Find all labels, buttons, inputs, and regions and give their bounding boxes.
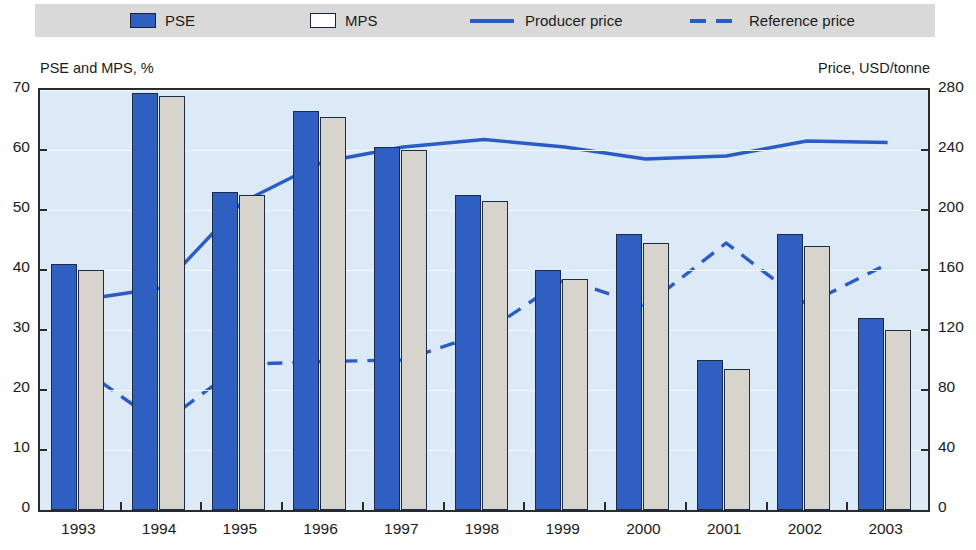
legend-solid-line-icon bbox=[470, 13, 514, 28]
legend-item-pse[interactable]: PSE bbox=[130, 4, 195, 37]
legend-item-label: Reference price bbox=[749, 12, 855, 29]
y-axis-right-tick-label: 80 bbox=[938, 378, 955, 396]
x-axis-tick-label-1994: 1994 bbox=[119, 520, 199, 538]
bar-mps-1994 bbox=[159, 96, 185, 510]
y-axis-left-tick-label: 10 bbox=[0, 438, 30, 456]
y-axis-left-tick bbox=[40, 149, 47, 151]
y-axis-left-tick bbox=[40, 269, 47, 271]
legend-item-label: MPS bbox=[345, 12, 378, 29]
y-axis-right-tick bbox=[921, 329, 928, 331]
y-axis-right-tick-label: 120 bbox=[938, 318, 964, 336]
x-axis-tick bbox=[766, 502, 768, 510]
bar-pse-2003 bbox=[858, 318, 884, 510]
bar-mps-2002 bbox=[804, 246, 830, 510]
legend-item-label: Producer price bbox=[525, 12, 623, 29]
x-axis-tick-label-2001: 2001 bbox=[684, 520, 764, 538]
y-axis-right-tick-label: 240 bbox=[938, 138, 964, 156]
bar-pse-1996 bbox=[293, 111, 319, 510]
y-axis-left-tick-label: 30 bbox=[0, 318, 30, 336]
x-axis-tick bbox=[846, 502, 848, 510]
bar-mps-2001 bbox=[724, 369, 750, 510]
gridline bbox=[40, 90, 928, 91]
y-axis-right-tick bbox=[921, 149, 928, 151]
bar-pse-1994 bbox=[132, 93, 158, 510]
legend-item-label: PSE bbox=[165, 12, 195, 29]
bar-mps-1993 bbox=[78, 270, 104, 510]
y-axis-right-tick-label: 40 bbox=[938, 438, 955, 456]
bar-mps-2000 bbox=[643, 243, 669, 510]
bar-mps-1999 bbox=[562, 279, 588, 510]
y-axis-left-tick-label: 0 bbox=[0, 498, 30, 516]
bar-mps-1997 bbox=[401, 150, 427, 510]
plot-area bbox=[38, 88, 930, 512]
x-axis-tick-label-2002: 2002 bbox=[765, 520, 845, 538]
y-axis-right-tick bbox=[921, 389, 928, 391]
y-axis-left-tick-label: 20 bbox=[0, 378, 30, 396]
right-axis-caption: Price, USD/tonne bbox=[818, 60, 930, 76]
x-axis-tick bbox=[281, 502, 283, 510]
left-axis-caption: PSE and MPS, % bbox=[40, 60, 154, 76]
bar-pse-1997 bbox=[374, 147, 400, 510]
x-axis-tick bbox=[120, 502, 122, 510]
bar-pse-2000 bbox=[616, 234, 642, 510]
y-axis-left-tick bbox=[40, 449, 47, 451]
x-axis-tick bbox=[604, 502, 606, 510]
x-axis-tick-label-1999: 1999 bbox=[523, 520, 603, 538]
chart-page: PSEMPSProducer priceReference price PSE … bbox=[0, 0, 976, 550]
legend-swatch-filled-icon bbox=[130, 13, 156, 28]
y-axis-right-tick bbox=[921, 269, 928, 271]
y-axis-left-tick bbox=[40, 329, 47, 331]
y-axis-left-tick bbox=[40, 389, 47, 391]
y-axis-right-tick-label: 200 bbox=[938, 198, 964, 216]
y-axis-left-tick-label: 40 bbox=[0, 258, 30, 276]
y-axis-right-tick-label: 280 bbox=[938, 78, 964, 96]
y-axis-right-tick-label: 160 bbox=[938, 258, 964, 276]
chart-legend: PSEMPSProducer priceReference price bbox=[35, 4, 935, 37]
bar-mps-1996 bbox=[320, 117, 346, 510]
x-axis-tick bbox=[685, 502, 687, 510]
legend-swatch-open-icon bbox=[310, 13, 336, 28]
y-axis-left-tick-label: 70 bbox=[0, 78, 30, 96]
y-axis-right-tick-label: 0 bbox=[938, 498, 947, 516]
bar-mps-2003 bbox=[885, 330, 911, 510]
x-axis-tick-label-2000: 2000 bbox=[603, 520, 683, 538]
bar-pse-1995 bbox=[212, 192, 238, 510]
x-axis-tick bbox=[523, 502, 525, 510]
x-axis-tick-label-1993: 1993 bbox=[38, 520, 118, 538]
y-axis-left-tick-label: 50 bbox=[0, 198, 30, 216]
bar-pse-1999 bbox=[535, 270, 561, 510]
bar-mps-1995 bbox=[239, 195, 265, 510]
y-axis-right-tick bbox=[921, 449, 928, 451]
x-axis-tick bbox=[362, 502, 364, 510]
legend-item-mps[interactable]: MPS bbox=[310, 4, 378, 37]
legend-item-reference-price[interactable]: Reference price bbox=[690, 4, 855, 37]
x-axis-tick-label-1995: 1995 bbox=[200, 520, 280, 538]
y-axis-left-tick bbox=[40, 209, 47, 211]
x-axis-tick bbox=[443, 502, 445, 510]
y-axis-left-tick-label: 60 bbox=[0, 138, 30, 156]
legend-item-producer-price[interactable]: Producer price bbox=[470, 4, 623, 37]
bar-pse-2001 bbox=[697, 360, 723, 510]
bar-pse-2002 bbox=[777, 234, 803, 510]
x-axis-tick-label-1998: 1998 bbox=[442, 520, 522, 538]
bar-mps-1998 bbox=[482, 201, 508, 510]
bar-pse-1998 bbox=[455, 195, 481, 510]
legend-dashed-line-icon bbox=[690, 13, 736, 28]
x-axis-tick-label-2003: 2003 bbox=[846, 520, 926, 538]
x-axis-tick-label-1997: 1997 bbox=[361, 520, 441, 538]
x-axis-tick bbox=[200, 502, 202, 510]
y-axis-right-tick bbox=[921, 209, 928, 211]
x-axis-tick-label-1996: 1996 bbox=[281, 520, 361, 538]
bar-pse-1993 bbox=[51, 264, 77, 510]
plot-inner bbox=[40, 90, 928, 510]
